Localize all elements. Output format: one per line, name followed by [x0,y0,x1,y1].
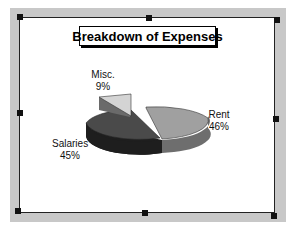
data-label-salaries: Salaries 45% [52,138,88,162]
data-label-rent: Rent 46% [206,109,232,133]
pie-chart-plot[interactable] [0,0,288,228]
data-label-misc: Misc. 9% [88,69,118,93]
